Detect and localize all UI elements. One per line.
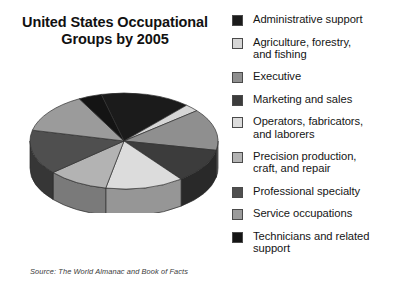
legend-item[interactable]: Precision production,craft, and repair [232,150,419,175]
legend-item-label-line2: and laborers [253,128,363,141]
legend-item[interactable]: Professional specialty [232,185,419,198]
pie-chart-svg: Administrative supportAgriculture, fores… [18,88,230,213]
legend-item-label: Technicians and relatedsupport [253,230,369,255]
legend-swatch-icon [232,152,243,163]
legend-swatch-icon [232,72,243,83]
legend-item[interactable]: Marketing and sales [232,93,419,106]
legend-item[interactable]: Executive [232,70,419,83]
legend-item-label: Agriculture, forestry,and fishing [253,36,351,61]
legend-item-label: Operators, fabricators,and laborers [253,115,363,140]
legend-swatch-icon [232,117,243,128]
pie-top-surface: Administrative supportAgriculture, fores… [30,93,218,189]
legend-swatch-icon [232,95,243,106]
chart-title-line1: United States Occupational [22,14,208,30]
chart-panel: United States Occupational Groups by 200… [0,0,230,307]
legend-swatch-icon [232,15,243,26]
chart-title-line2: Groups by 2005 [61,31,168,47]
legend-swatch-icon [232,209,243,220]
legend-item-label: Professional specialty [253,185,360,198]
legend-item[interactable]: Service occupations [232,207,419,220]
legend-swatch-icon [232,38,243,49]
legend-item[interactable]: Technicians and relatedsupport [232,230,419,255]
legend-item-label: Administrative support [253,13,363,26]
legend-item-label: Service occupations [253,207,352,220]
legend-swatch-icon [232,187,243,198]
legend-item[interactable]: Agriculture, forestry,and fishing [232,36,419,61]
legend-item-label: Marketing and sales [253,93,352,106]
legend-item-label: Executive [253,70,301,83]
legend-item-label-line2: craft, and repair [253,162,356,175]
legend-item-label-line2: support [253,242,369,255]
page-title: United States Occupational Groups by 200… [8,14,222,48]
legend-item-label: Precision production,craft, and repair [253,150,356,175]
legend-item[interactable]: Operators, fabricators,and laborers [232,115,419,140]
source-citation: Source: The World Almanac and Book of Fa… [30,267,188,276]
legend-swatch-icon [232,232,243,243]
pie-chart: Administrative supportAgriculture, fores… [18,88,230,213]
legend: Administrative supportAgriculture, fores… [232,13,419,264]
legend-item[interactable]: Administrative support [232,13,419,26]
legend-item-label-line2: and fishing [253,48,351,61]
